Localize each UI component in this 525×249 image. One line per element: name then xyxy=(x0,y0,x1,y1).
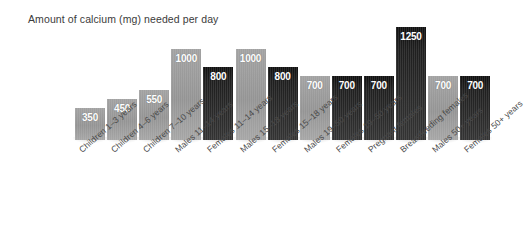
x-axis-label: Females 50+ years xyxy=(462,98,525,154)
x-axis-label: Males 19–50 years xyxy=(302,99,364,155)
x-axis-label: Males 15–18 years xyxy=(238,99,300,155)
